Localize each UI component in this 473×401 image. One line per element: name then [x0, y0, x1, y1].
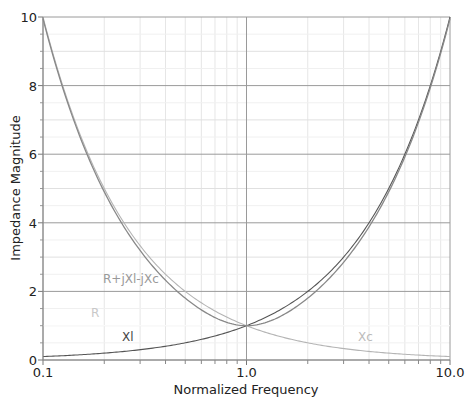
- series-label: R+jXl-jXc: [103, 272, 159, 286]
- y-tick-label: 2: [29, 284, 37, 299]
- axes: [38, 17, 450, 365]
- y-tick-label: 8: [29, 79, 37, 94]
- series-label: Xl: [122, 330, 134, 344]
- y-tick-label: 6: [29, 147, 37, 162]
- x-axis-label: Normalized Frequency: [173, 382, 318, 397]
- series-label: Xc: [358, 330, 373, 344]
- series-labels: R+jXl-jXcRXlXc: [91, 272, 373, 344]
- y-tick-label: 4: [29, 216, 37, 231]
- y-axis-label: Impedance Magnitude: [8, 115, 23, 260]
- series-label: R: [91, 306, 99, 320]
- impedance-chart: 02468100.11.010.0 R+jXl-jXcRXlXc Normali…: [0, 0, 473, 401]
- x-tick-label: 10.0: [436, 365, 465, 380]
- x-tick-label: 1.0: [236, 365, 257, 380]
- x-tick-label: 0.1: [33, 365, 54, 380]
- y-tick-label: 10: [20, 10, 37, 25]
